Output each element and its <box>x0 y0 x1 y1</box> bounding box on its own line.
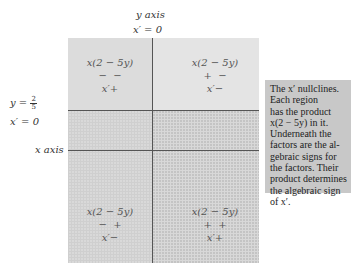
xprime-sign: x′− <box>75 231 145 244</box>
fraction-denominator: 5 <box>30 104 36 111</box>
product-expression: x(2 − 5y) <box>75 205 145 218</box>
y-axis-label: y axis <box>136 9 165 20</box>
product-expression: x(2 − 5y) <box>180 205 250 218</box>
note-line: Underneath the <box>270 128 351 139</box>
note-line: has the product <box>270 106 351 117</box>
factor-signs: + + <box>180 218 250 231</box>
note-line: gebraic signs for <box>270 151 351 162</box>
xprime-sign: x′+ <box>180 231 250 244</box>
factor-signs: + − <box>180 69 250 82</box>
note-line: of x′. <box>270 196 351 207</box>
note-line: the factors. Their <box>270 162 351 173</box>
nullcline-y-two-fifths-line <box>68 110 259 111</box>
note-line: product determines <box>270 173 351 184</box>
region-text-top-right: x(2 − 5y) + − x′− <box>180 56 250 95</box>
region-text-bottom-left: x(2 − 5y) − + x′− <box>75 205 145 244</box>
xprime-sign: x′− <box>180 82 250 95</box>
y-equals-text: y = <box>10 97 27 108</box>
note-line: factors are the al- <box>270 139 351 150</box>
product-expression: x(2 − 5y) <box>75 56 145 69</box>
x-axis-label: x axis <box>35 144 64 155</box>
explanation-note: The x′ nullclines. Each region has the p… <box>265 80 351 193</box>
x-axis-label-text: x axis <box>35 144 64 155</box>
phase-plane: x(2 − 5y) − − x′+ x(2 − 5y) + − x′− x(2 … <box>68 38 259 263</box>
y-axis-label-text: y axis <box>136 9 165 20</box>
fraction-two-fifths: 2 5 <box>30 96 36 111</box>
y-axis-nullcline-label: x′ = 0 <box>133 24 162 35</box>
horizontal-nullcline-xprime-label: x′ = 0 <box>10 116 39 127</box>
factor-signs: − + <box>75 218 145 231</box>
note-line: the algebraic sign <box>270 185 351 196</box>
region-text-bottom-right: x(2 − 5y) + + x′+ <box>180 205 250 244</box>
note-line: The x′ nullclines. <box>270 83 351 94</box>
xprime-sign: x′+ <box>75 82 145 95</box>
product-expression: x(2 − 5y) <box>180 56 250 69</box>
factor-signs: − − <box>75 69 145 82</box>
note-line: x(2 − 5y) in it. <box>270 117 351 128</box>
note-line: Each region <box>270 94 351 105</box>
region-text-top-left: x(2 − 5y) − − x′+ <box>75 56 145 95</box>
x-axis-line <box>68 150 259 151</box>
horizontal-nullcline-label: y = 2 5 <box>10 96 37 111</box>
